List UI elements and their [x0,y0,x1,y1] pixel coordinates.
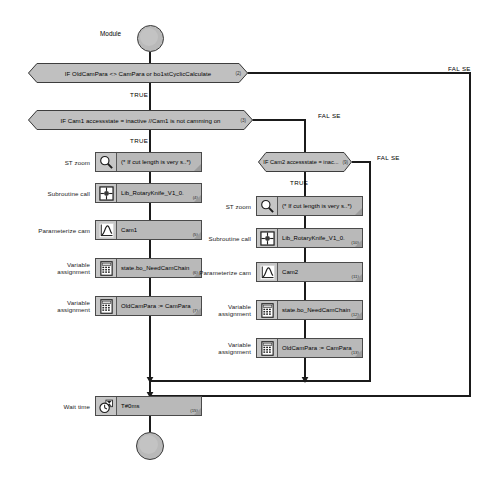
block-st-zoom-2[interactable]: (* If cut length is very s..*) [256,196,363,216]
calculator-icon [96,297,117,315]
decision-oldcampara[interactable]: IF OldCamPara <> CamPara or bo1stCyclicC… [28,63,248,83]
block-variable-assignment-oldcampara-2[interactable]: OldCamPara := CamPara (13) [256,338,363,358]
edge-label-false-3: FAL SE [377,154,400,161]
block-corner [194,408,201,415]
decision-badge: (9) [342,160,348,165]
block-parameterize-cam2[interactable]: Cam2 (11) [256,262,363,282]
block-corner [355,350,362,357]
decision-text: IF OldCamPara <> CamPara or bo1stCyclicC… [65,70,211,77]
decision-cam2-accessstate[interactable]: IF Cam2 accessstate = inac... (9) [258,152,352,172]
start-node[interactable] [137,25,164,52]
block-corner [355,240,362,247]
block-text: OldCamPara := CamPara [117,297,201,315]
calculator-icon [257,301,278,319]
block-text: (* If cut length is very s..*) [117,153,201,171]
block-corner [194,195,201,202]
block-text: Lib_RotaryKnife_V1_0. [278,229,362,247]
edge-label-false-2: FAL SE [318,112,341,119]
block-corner [355,274,362,281]
cam-curve-icon [257,263,278,281]
decision-badge: (3) [240,118,246,123]
flowchart-canvas: Module IF OldCamPara <> CamPara or bo1st… [0,0,492,477]
block-wait-time[interactable]: T#0ms (15) [95,396,202,416]
decision-cam1-accessstate[interactable]: IF Cam1 accessstate = inactive //Cam1 is… [28,110,253,130]
edge-label-true-3: TRUE [290,179,308,186]
block-subroutine-call[interactable]: Lib_RotaryKnife_V1_0. (4) [95,183,202,203]
edge-label-true-1: TRUE [130,91,148,98]
row-label-st-zoom-2: ST zoom [196,203,251,210]
edge-label-false-1: FAL SE [448,65,471,72]
row-label-variable-assignment-1: Variable assignment [35,261,90,276]
decision-text: IF Cam2 accessstate = inac... [263,159,346,165]
block-subroutine-call-2[interactable]: Lib_RotaryKnife_V1_0. (10) [256,228,363,248]
row-label-variable-assignment-3: Variable assignment [196,303,251,318]
block-text: state.bo_NeedCamChain [278,301,362,319]
end-node[interactable] [136,432,164,460]
block-corner [355,208,362,215]
row-label-variable-assignment-2: Variable assignment [35,299,90,314]
magnifier-icon [96,153,117,171]
subroutine-icon [257,229,278,247]
block-text: Cam2 [278,263,362,281]
row-label-variable-assignment-4: Variable assignment [196,341,251,356]
row-label-st-zoom: ST zoom [35,159,90,166]
block-st-zoom[interactable]: (* If cut length is very s..*) [95,152,202,172]
row-label-wait-time: Wait time [35,403,90,410]
decision-badge: (2) [235,71,241,76]
row-label-parameterize-cam-2: Parameterize cam [179,269,251,276]
calculator-icon [257,339,278,357]
block-variable-assignment-oldcampara[interactable]: OldCamPara := CamPara (7) [95,296,202,316]
block-text: Lib_RotaryKnife_V1_0. [117,184,201,202]
start-node-label: Module [100,30,121,37]
block-text: (* If cut length is very s..*) [278,197,362,215]
calculator-icon [96,259,117,277]
edge-label-true-2: TRUE [130,137,148,144]
block-variable-assignment-needcamchain-2[interactable]: state.bo_NeedCamChain (12) [256,300,363,320]
block-corner [194,164,201,171]
subroutine-icon [96,184,117,202]
magnifier-icon [257,197,278,215]
row-label-parameterize-cam: Parameterize cam [18,227,90,234]
decision-text: IF Cam1 accessstate = inactive //Cam1 is… [60,117,220,124]
clock-icon [96,397,117,415]
block-text: OldCamPara := CamPara [278,339,362,357]
row-label-subroutine-call: Subroutine call [25,190,90,197]
block-corner [355,312,362,319]
row-label-subroutine-call-2: Subroutine call [186,235,251,242]
block-text: T#0ms [117,397,201,415]
cam-curve-icon [96,221,117,239]
